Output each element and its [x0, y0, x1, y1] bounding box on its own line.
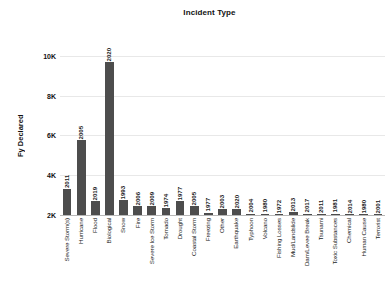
x-axis-tick-label: Terrorist: [375, 218, 381, 239]
y-axis-tick-label: 8K: [30, 92, 56, 99]
bar-slot[interactable]: 2020: [232, 40, 241, 215]
x-axis-tick-label: Coastal Storm: [191, 218, 197, 256]
bar-slot[interactable]: 1972: [275, 40, 284, 215]
bar-value-label: 2006: [135, 192, 141, 205]
bar-value-label: 2005: [78, 126, 84, 139]
bar[interactable]: [147, 206, 156, 215]
bar-slot[interactable]: 2011: [317, 40, 326, 215]
x-axis-tick-label: Toxic Substances: [332, 218, 338, 265]
x-axis-tick-label: Tsunami: [318, 218, 324, 240]
bar-slot[interactable]: 2004: [246, 40, 255, 215]
bar-slot[interactable]: 2013: [289, 40, 298, 215]
y-axis-tick-label: 6K: [30, 132, 56, 139]
bar-slot[interactable]: 1980: [359, 40, 368, 215]
bar-slot[interactable]: 1977: [176, 40, 185, 215]
bar-value-label: 1981: [332, 199, 338, 212]
bar-value-label: 1974: [163, 194, 169, 207]
x-axis-tick-label: Earthquake: [233, 218, 239, 249]
x-axis-tick-label: Human Cause: [361, 218, 367, 256]
bar-value-label: 1977: [205, 198, 211, 211]
bar-value-label: 2004: [248, 199, 254, 212]
x-axis-tick-label: Hurricane: [78, 218, 84, 244]
bar-chart: Incident Type Fy Declared 2K4K6K8K10K 20…: [0, 0, 389, 291]
bar-slot[interactable]: 2003: [218, 40, 227, 215]
bar-value-label: 2011: [318, 200, 324, 213]
bar-slot[interactable]: 2005: [190, 40, 199, 215]
bar-value-label: 2019: [92, 187, 98, 200]
x-axis-tick-label: Chemical: [346, 218, 352, 243]
chart-title: Incident Type: [0, 8, 389, 17]
x-axis-tick-label: Mud/Landslide: [290, 218, 296, 257]
bar-value-label: 2017: [304, 199, 310, 212]
bar-value-label: 1977: [177, 187, 183, 200]
x-axis-tick-labels: Severe Storm(s)HurricaneFloodBiologicalS…: [60, 218, 385, 290]
x-axis-tick-label: Severe Ice Storm: [149, 218, 155, 264]
bar-slot[interactable]: 2017: [303, 40, 312, 215]
bar-value-label: 2011: [64, 175, 70, 188]
bar[interactable]: [119, 200, 128, 215]
x-axis-tick-label: Fire: [135, 218, 141, 228]
bar[interactable]: [176, 201, 185, 215]
bar-slot[interactable]: 2019: [91, 40, 100, 215]
x-axis-tick-label: Dam/Levee Break: [304, 218, 310, 266]
bar-value-label: 2001: [375, 200, 381, 213]
bar-value-label: 2020: [234, 195, 240, 208]
bar-value-label: 2020: [106, 48, 112, 61]
bar-value-label: 1980: [361, 200, 367, 213]
bar[interactable]: [91, 201, 100, 215]
bar-slot[interactable]: 2011: [63, 40, 72, 215]
bar[interactable]: [190, 206, 199, 215]
bar-slot[interactable]: 1974: [162, 40, 171, 215]
x-axis-tick-label: Other: [219, 218, 225, 233]
x-axis-tick-label: Snow: [120, 218, 126, 233]
bar-slot[interactable]: 1980: [261, 40, 270, 215]
bar-value-label: 2014: [347, 200, 353, 213]
x-axis-tick-label: Flood: [92, 218, 98, 233]
bar-slot[interactable]: 2014: [345, 40, 354, 215]
bar-slot[interactable]: 2005: [77, 40, 86, 215]
bar[interactable]: [77, 140, 86, 215]
bar-value-label: 2013: [290, 198, 296, 211]
bar-slot[interactable]: 2020: [105, 40, 114, 215]
plot-area: 2011200520192020199320062009197419772005…: [60, 40, 385, 215]
bar-slot[interactable]: 1993: [119, 40, 128, 215]
bar-value-label: 2003: [219, 195, 225, 208]
bar-slot[interactable]: 2006: [133, 40, 142, 215]
y-axis-tick-label: 4K: [30, 172, 56, 179]
bar[interactable]: [63, 189, 72, 215]
bar-value-label: 1980: [262, 199, 268, 212]
bar-slot[interactable]: 1981: [331, 40, 340, 215]
bar-value-label: 2009: [149, 192, 155, 205]
bar-slot[interactable]: 2009: [147, 40, 156, 215]
y-axis-tick-labels: 2K4K6K8K10K: [28, 40, 56, 215]
x-axis-tick-label: Tornado: [163, 218, 169, 240]
x-axis-tick-label: Freezing: [205, 218, 211, 241]
x-axis-tick-label: Biological: [106, 218, 112, 243]
x-axis-tick-label: Fishing Losses: [276, 218, 282, 258]
bar[interactable]: [162, 208, 171, 215]
y-axis-title: Fy Declared: [14, 96, 26, 176]
x-axis-line: [60, 215, 385, 216]
bar-value-label: 1993: [120, 186, 126, 199]
bar-slot[interactable]: 1977: [204, 40, 213, 215]
bar-value-label: 2005: [191, 192, 197, 205]
x-axis-tick-label: Typhoon: [248, 218, 254, 241]
x-axis-tick-label: Volcano: [262, 218, 268, 239]
y-axis-tick-label: 10K: [30, 52, 56, 59]
x-axis-tick-label: Severe Storm(s): [64, 218, 70, 262]
x-axis-tick-label: Drought: [177, 218, 183, 239]
bar-value-label: 1972: [276, 200, 282, 213]
y-axis-tick-label: 2K: [30, 212, 56, 219]
bar-slot[interactable]: 2001: [374, 40, 383, 215]
bar[interactable]: [133, 206, 142, 215]
bar[interactable]: [105, 62, 114, 215]
